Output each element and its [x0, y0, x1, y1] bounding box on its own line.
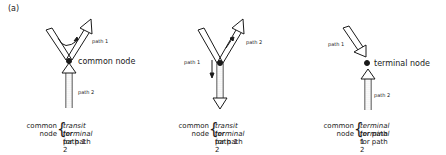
left-node-label: common node [78, 57, 135, 66]
caption-right-line1-italic: transit [63, 122, 86, 130]
right-path1-label: path 1 [328, 41, 344, 47]
path1-left-arm [46, 28, 72, 60]
caption-right-line2-italic: terminal [215, 130, 244, 138]
caption-right-line2-rest: for path 2 [63, 138, 91, 154]
caption-right-line1-italic: terminal [360, 122, 389, 130]
middle-path2-label: path 2 [246, 39, 262, 45]
middle-panel-graphic [198, 19, 244, 109]
right-path2-label: path 2 [374, 92, 390, 98]
figure-label: (a) [8, 4, 19, 13]
caption-right-line2-rest: for path 2 [215, 138, 243, 154]
caption-left-line2: node [171, 130, 209, 138]
caption-left-line2: node [316, 130, 354, 138]
caption-left-line2: node [19, 130, 57, 138]
caption-right-line2-rest: for path 2 [360, 138, 388, 154]
caption-right-line2-italic: terminal [360, 130, 389, 138]
path2-arrow [62, 63, 76, 108]
left-path2-label: path 2 [78, 89, 94, 95]
middle-path1-label: path 1 [184, 59, 200, 65]
caption-right-line2-italic: terminal [63, 130, 92, 138]
caption-right-line1-italic: transit [215, 122, 238, 130]
caption-left-line1: common [19, 122, 57, 130]
right-panel-graphic [343, 26, 375, 110]
caption-left-line1: common [171, 122, 209, 130]
path1-right-arm [66, 19, 92, 60]
caption-left-line1: common [316, 122, 354, 130]
left-path1-label: path 1 [92, 38, 108, 44]
right-node-label: terminal node [374, 59, 430, 68]
